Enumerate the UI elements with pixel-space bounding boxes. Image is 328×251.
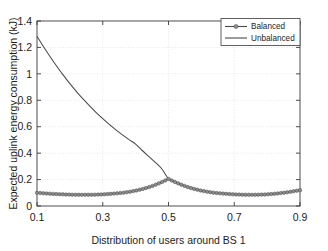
data-point-marker bbox=[141, 187, 145, 191]
data-point-marker bbox=[99, 193, 103, 197]
data-point-marker bbox=[119, 191, 123, 195]
data-point-marker bbox=[61, 193, 65, 197]
data-point-marker bbox=[80, 193, 84, 197]
x-tick-label: 0.7 bbox=[227, 211, 242, 223]
data-point-marker bbox=[180, 183, 184, 187]
data-point-marker bbox=[202, 189, 206, 193]
data-point-marker bbox=[205, 190, 209, 194]
data-point-marker bbox=[125, 190, 129, 194]
data-point-marker bbox=[224, 192, 228, 196]
data-point-marker bbox=[64, 193, 68, 197]
y-tick-label: 0 bbox=[26, 200, 32, 212]
data-point-marker bbox=[148, 185, 152, 189]
data-point-marker bbox=[231, 193, 235, 197]
x-axis-title: Distribution of users around BS 1 bbox=[91, 234, 245, 246]
data-point-marker bbox=[237, 193, 241, 197]
data-point-marker bbox=[38, 191, 42, 195]
data-point-marker bbox=[241, 193, 245, 197]
data-point-marker bbox=[42, 192, 46, 196]
data-point-marker bbox=[247, 193, 251, 197]
data-point-marker bbox=[103, 193, 107, 197]
data-point-marker bbox=[199, 189, 203, 193]
data-point-marker bbox=[122, 191, 126, 195]
y-tick-label: 0.6 bbox=[17, 120, 32, 132]
data-point-marker bbox=[208, 190, 212, 194]
data-point-marker bbox=[170, 179, 174, 183]
data-point-marker bbox=[83, 193, 87, 197]
y-tick-label: 0.2 bbox=[17, 173, 32, 185]
data-point-marker bbox=[298, 188, 302, 192]
data-point-marker bbox=[289, 190, 293, 194]
data-point-marker bbox=[244, 193, 248, 197]
data-point-marker bbox=[183, 184, 187, 188]
data-point-marker bbox=[234, 193, 238, 197]
data-point-marker bbox=[221, 192, 225, 196]
data-point-marker bbox=[279, 191, 283, 195]
data-point-marker bbox=[138, 188, 142, 192]
data-point-marker bbox=[263, 193, 267, 197]
chart-legend[interactable]: Balanced Unbalanced bbox=[221, 19, 300, 46]
data-point-marker bbox=[260, 193, 264, 197]
data-point-marker bbox=[215, 191, 219, 195]
data-point-marker bbox=[128, 190, 132, 194]
y-axis-title: Expected uplink energy consumption (kJ) bbox=[7, 17, 19, 209]
y-tick-label: 0.8 bbox=[17, 94, 32, 106]
data-point-marker bbox=[173, 180, 177, 184]
y-tick-label: 0.4 bbox=[17, 147, 32, 159]
chart-figure: 0.10.30.50.70.9 00.20.40.60.811.21.4 Dis… bbox=[0, 0, 328, 251]
data-point-marker bbox=[106, 192, 110, 196]
data-point-marker bbox=[48, 192, 52, 196]
data-point-marker bbox=[109, 192, 113, 196]
data-point-marker bbox=[218, 192, 222, 196]
chart-canvas: 0.10.30.50.70.9 00.20.40.60.811.21.4 Dis… bbox=[0, 0, 328, 251]
y-tick-label: 1 bbox=[26, 68, 32, 80]
data-point-marker bbox=[285, 191, 289, 195]
data-point-marker bbox=[51, 192, 55, 196]
data-point-marker bbox=[96, 193, 100, 197]
data-point-marker bbox=[257, 193, 261, 197]
data-point-marker bbox=[35, 191, 39, 195]
data-point-marker bbox=[157, 182, 161, 186]
data-point-marker bbox=[77, 193, 81, 197]
legend-label-balanced: Balanced bbox=[251, 22, 286, 31]
y-tick-label: 1.4 bbox=[17, 15, 32, 27]
legend-swatch-marker-balanced bbox=[234, 24, 238, 28]
data-point-marker bbox=[151, 184, 155, 188]
x-tick-label: 0.3 bbox=[95, 211, 110, 223]
data-point-marker bbox=[71, 193, 75, 197]
data-point-marker bbox=[282, 191, 286, 195]
data-point-marker bbox=[54, 192, 58, 196]
data-point-marker bbox=[196, 188, 200, 192]
legend-label-unbalanced: Unbalanced bbox=[251, 34, 295, 43]
data-point-marker bbox=[93, 193, 97, 197]
data-point-marker bbox=[115, 192, 119, 196]
y-tick-label: 1.2 bbox=[17, 41, 32, 53]
x-tick-label: 0.5 bbox=[161, 211, 176, 223]
data-point-marker bbox=[144, 186, 148, 190]
data-point-marker bbox=[228, 192, 232, 196]
data-point-marker bbox=[253, 193, 257, 197]
data-point-marker bbox=[212, 191, 216, 195]
x-tick-label: 0.9 bbox=[293, 211, 308, 223]
data-point-marker bbox=[189, 186, 193, 190]
data-point-marker bbox=[135, 189, 139, 193]
data-point-marker bbox=[186, 185, 190, 189]
data-point-marker bbox=[176, 182, 180, 186]
data-point-marker bbox=[269, 192, 273, 196]
data-point-marker bbox=[160, 180, 164, 184]
data-point-marker bbox=[67, 193, 71, 197]
data-point-marker bbox=[167, 177, 171, 181]
data-point-marker bbox=[58, 192, 62, 196]
data-point-marker bbox=[192, 187, 196, 191]
data-point-marker bbox=[74, 193, 78, 197]
data-point-marker bbox=[292, 190, 296, 194]
data-point-marker bbox=[273, 192, 277, 196]
data-point-marker bbox=[87, 193, 91, 197]
data-point-marker bbox=[90, 193, 94, 197]
data-point-marker bbox=[112, 192, 116, 196]
data-point-marker bbox=[250, 193, 254, 197]
data-point-marker bbox=[154, 183, 158, 187]
data-point-marker bbox=[45, 192, 49, 196]
data-point-marker bbox=[131, 189, 135, 193]
data-point-marker bbox=[164, 179, 168, 183]
